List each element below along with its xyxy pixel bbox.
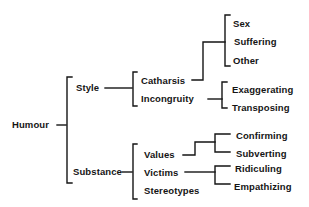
- node-stereotypes: Stereotypes: [144, 185, 199, 196]
- bracket-humour: [67, 77, 72, 183]
- bracket-incongruity: [222, 82, 227, 108]
- node-humour: Humour: [12, 119, 49, 130]
- bracket-substance: [133, 144, 137, 199]
- node-victims: Victims: [144, 167, 178, 178]
- node-exaggerating: Exaggerating: [232, 84, 293, 95]
- node-other: Other: [233, 55, 259, 66]
- node-catharsis: Catharsis: [141, 75, 185, 86]
- node-suffering: Suffering: [234, 36, 277, 47]
- node-values: Values: [144, 149, 175, 160]
- node-substance: Substance: [73, 166, 122, 177]
- node-subverting: Subverting: [236, 148, 287, 159]
- bracket-catharsis: [225, 15, 230, 66]
- bracket-victims: [215, 166, 230, 184]
- node-ridiculing: Ridiculing: [235, 163, 282, 174]
- bracket-values: [215, 134, 230, 152]
- node-confirming: Confirming: [236, 130, 288, 141]
- node-style: Style: [76, 82, 99, 93]
- bracket-style: [133, 72, 137, 106]
- node-incongruity: Incongruity: [141, 93, 194, 104]
- node-empathizing: Empathizing: [234, 181, 292, 192]
- node-sex: Sex: [233, 18, 250, 29]
- node-transposing: Transposing: [232, 102, 290, 113]
- connector-catharsis: [192, 42, 225, 80]
- connector-values: [183, 142, 215, 155]
- humour-taxonomy-diagram: Humour Style Substance Catharsis Incongr…: [0, 0, 309, 207]
